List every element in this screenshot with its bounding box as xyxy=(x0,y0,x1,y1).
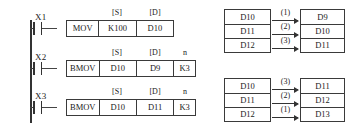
instruction-block-bmov-up[interactable]: BMOV D10 D11 K3 xyxy=(66,99,196,116)
instruction-mnemonic: BMOV xyxy=(67,100,99,115)
operand-header-s-rung1: [S] xyxy=(98,9,136,17)
instruction-operand-n: K3 xyxy=(173,61,195,76)
operand-header-d-rung1: [D] xyxy=(136,9,174,17)
table-row: D12 xyxy=(225,107,270,121)
instruction-operand-d: D9 xyxy=(136,61,173,76)
table-row: D12 xyxy=(301,93,344,107)
contact-bar-left xyxy=(33,22,35,35)
contact-lead-left xyxy=(30,107,33,108)
instruction-operand-d: D11 xyxy=(136,100,173,115)
table-row: D9 xyxy=(301,10,344,24)
contact-x1[interactable] xyxy=(33,22,42,35)
instruction-operand-s: D10 xyxy=(99,100,136,115)
transfer-arrow-4 xyxy=(272,89,298,90)
table-row: D11 xyxy=(225,93,270,107)
transfer-table-1-source: D10 D11 D12 xyxy=(224,9,271,53)
transfer-arrow-5 xyxy=(272,103,298,104)
table-row: D12 xyxy=(225,38,270,52)
transfer-table-1-destination: D9 D10 D11 xyxy=(300,9,345,53)
contact-x2[interactable] xyxy=(33,62,42,75)
instruction-operand-d: D10 xyxy=(136,21,173,36)
instruction-mnemonic: MOV xyxy=(67,21,98,36)
instruction-operand-s: D10 xyxy=(99,61,136,76)
transfer-arrow-2 xyxy=(272,34,298,35)
contact-bar-left xyxy=(33,101,35,114)
instruction-block-bmov-down[interactable]: BMOV D10 D9 K3 xyxy=(66,60,196,77)
contact-label-x1: X1 xyxy=(35,13,46,22)
transfer-arrow-1 xyxy=(272,20,298,21)
operand-header-n-rung3: n xyxy=(174,88,196,96)
table-row: D11 xyxy=(301,38,344,52)
transfer-table-2-source: D10 D11 D12 xyxy=(224,78,271,122)
operand-header-n-rung2: n xyxy=(174,49,196,57)
contact-lead-left xyxy=(30,28,33,29)
contact-label-x3: X3 xyxy=(35,92,46,101)
instruction-operand-s: K100 xyxy=(98,21,135,36)
table-row: D13 xyxy=(301,107,344,121)
contact-label-x2: X2 xyxy=(35,53,46,62)
contact-x3[interactable] xyxy=(33,101,42,114)
contact-lead-right xyxy=(42,68,57,69)
transfer-sequence-label-4: (3) xyxy=(272,78,299,86)
table-row: D11 xyxy=(225,24,270,38)
operand-header-s-rung2: [S] xyxy=(98,49,136,57)
contact-bar-left xyxy=(33,62,35,75)
instruction-operand-n: K3 xyxy=(173,100,195,115)
transfer-sequence-label-6: (1) xyxy=(272,106,299,114)
operand-header-d-rung3: [D] xyxy=(136,88,174,96)
transfer-sequence-label-3: (3) xyxy=(272,37,299,45)
ladder-diagram-canvas: X1 [S] [D] MOV K100 D10 X2 [S] [D] n BMO… xyxy=(0,0,362,134)
operand-header-s-rung3: [S] xyxy=(98,88,136,96)
table-row: D11 xyxy=(301,79,344,93)
instruction-block-mov[interactable]: MOV K100 D10 xyxy=(66,20,174,37)
operand-header-d-rung2: [D] xyxy=(136,49,174,57)
transfer-arrow-3 xyxy=(272,48,298,49)
table-row: D10 xyxy=(225,79,270,93)
table-row: D10 xyxy=(301,24,344,38)
contact-lead-left xyxy=(30,68,33,69)
contact-lead-right xyxy=(42,107,57,108)
transfer-sequence-label-5: (2) xyxy=(272,92,299,100)
instruction-mnemonic: BMOV xyxy=(67,61,99,76)
transfer-sequence-label-1: (1) xyxy=(272,9,299,17)
transfer-table-2-destination: D11 D12 D13 xyxy=(300,78,345,122)
transfer-sequence-label-2: (2) xyxy=(272,23,299,31)
contact-lead-right xyxy=(42,28,57,29)
table-row: D10 xyxy=(225,10,270,24)
transfer-arrow-6 xyxy=(272,117,298,118)
